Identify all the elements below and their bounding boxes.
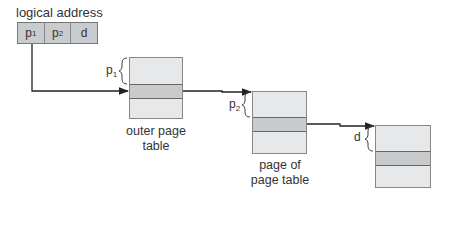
brace-text: d — [354, 130, 361, 144]
selected-entry-band — [253, 117, 306, 132]
memory-page — [375, 125, 431, 188]
outer-page-table — [129, 57, 183, 119]
selected-entry-band — [130, 84, 182, 99]
brace-text: p — [229, 97, 236, 111]
brace-subscript: 2 — [236, 104, 240, 113]
label-line: page of — [230, 158, 330, 173]
label-line: table — [110, 139, 202, 154]
brace-subscript: 1 — [113, 70, 117, 79]
page-of-page-table — [252, 91, 307, 154]
label-line: outer page — [110, 124, 202, 139]
brace-label-d: d — [354, 130, 361, 144]
page-of-page-table-label: page of page table — [230, 158, 330, 188]
selected-entry-band — [376, 151, 430, 166]
brace-label-p2: p2 — [229, 97, 240, 113]
brace-text: p — [106, 63, 113, 77]
outer-page-table-label: outer page table — [110, 124, 202, 154]
label-line: page table — [230, 173, 330, 188]
brace-label-p1: p1 — [106, 63, 117, 79]
